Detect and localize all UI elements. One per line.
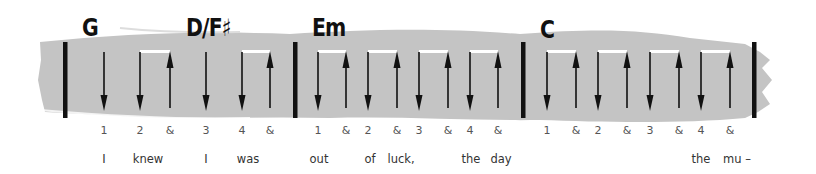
beat-count: 3 <box>647 124 654 137</box>
beat-count: 3 <box>416 124 423 137</box>
lyric-word: day <box>490 152 511 166</box>
beat-count: & <box>266 124 275 137</box>
lyric-word: mu – <box>723 152 751 166</box>
strum-diagram: GD/F♯EmC 12&34&1&2&3&4&1&2&3&4& IknewIwa… <box>0 0 816 174</box>
tie-line <box>419 50 448 53</box>
tie-line <box>470 50 498 53</box>
beat-count: 1 <box>101 124 108 137</box>
bar-line <box>293 42 298 118</box>
bar-line <box>63 42 68 118</box>
tie-line <box>318 50 346 53</box>
beat-count: & <box>393 124 402 137</box>
beat-count: & <box>342 124 351 137</box>
gray-brush-band <box>38 30 772 122</box>
beat-count: 1 <box>544 124 551 137</box>
beat-count: 2 <box>365 124 372 137</box>
lyric-word: I <box>102 152 105 166</box>
chord-label: Em <box>312 16 345 40</box>
bar-line <box>752 42 757 118</box>
strum-band-graphic <box>0 0 816 174</box>
chord-label: D/F♯ <box>186 16 231 40</box>
chord-label: G <box>82 16 98 40</box>
beat-count: & <box>675 124 684 137</box>
beat-count: & <box>444 124 453 137</box>
tie-line <box>701 50 730 53</box>
beat-count: 1 <box>315 124 322 137</box>
beat-count: 4 <box>467 124 474 137</box>
beat-count: & <box>572 124 581 137</box>
beat-count: 2 <box>595 124 602 137</box>
lyric-word: was <box>237 152 259 166</box>
tie-line <box>547 50 576 53</box>
beat-count: & <box>623 124 632 137</box>
beat-count: & <box>726 124 735 137</box>
tie-line <box>140 50 170 53</box>
lyric-word: luck, <box>387 152 414 166</box>
lyric-word: out <box>310 152 329 166</box>
lyric-word: the <box>462 152 481 166</box>
lyric-word: the <box>692 152 711 166</box>
tie-line <box>598 50 627 53</box>
beat-count: 3 <box>203 124 210 137</box>
beat-count: & <box>494 124 503 137</box>
tie-line <box>242 50 270 53</box>
beat-count: 2 <box>137 124 144 137</box>
lyric-word: knew <box>133 152 163 166</box>
tie-line <box>650 50 679 53</box>
tie-line <box>368 50 397 53</box>
lyric-word: of <box>364 152 375 166</box>
beat-count: 4 <box>698 124 705 137</box>
lyric-word: I <box>204 152 207 166</box>
beat-count: 4 <box>239 124 246 137</box>
chord-label: C <box>540 18 554 42</box>
beat-count: & <box>166 124 175 137</box>
bar-line <box>521 42 526 118</box>
